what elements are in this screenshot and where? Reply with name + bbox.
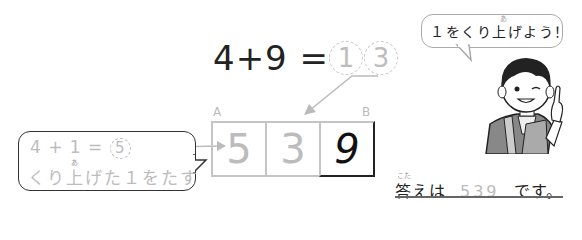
hint-line-1: 4 + 1 = 5 [30,137,131,159]
hint-line-2: くり上げた１をたす [28,164,199,189]
box-label-a: A [213,105,221,119]
box-hundreds: 5 [211,121,265,177]
box-ones: 9 [319,121,375,177]
answer-value: 539 [460,182,500,201]
character-speech-text: １をくり上げよう！ [430,21,570,41]
hint-result-circle: 5 [110,138,131,159]
answer-sentence: 答えは539です。 [395,178,563,202]
box-tens: 3 [265,121,319,177]
answer-prefix: 答えは [395,182,446,201]
digit-boxes: 5 3 9 [211,121,375,177]
box-label-b: B [362,105,370,119]
teacher-character-icon [482,54,568,154]
hint-sum-text: 4 + 1 = [30,137,103,157]
answer-underline [395,196,563,198]
answer-suffix: です。 [514,182,563,201]
bubble-tail-icon [455,44,479,64]
